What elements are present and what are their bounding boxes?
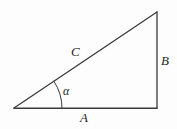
base-leg-label-a: A bbox=[80, 111, 88, 124]
angle-arc bbox=[54, 81, 62, 108]
angle-label-alpha: α bbox=[63, 85, 69, 97]
triangle-drawing bbox=[0, 0, 177, 129]
hypotenuse-line-c bbox=[14, 12, 157, 108]
triangle-figure: C B A α bbox=[0, 0, 177, 129]
hypotenuse-label-c: C bbox=[71, 45, 80, 58]
vertical-leg-label-b: B bbox=[161, 54, 169, 67]
